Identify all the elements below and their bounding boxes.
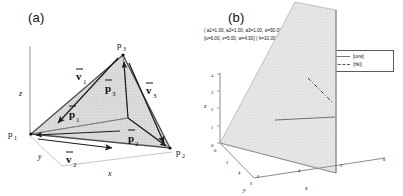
panel-a: (a) <box>0 0 202 196</box>
x-tick-6: 6 <box>257 174 260 179</box>
edge-vector-label-v2: v 2 <box>66 152 77 169</box>
panel-b-plot: 0 1 2 3 4 0 2 4 6 0 2 4 6 z y x <box>200 0 403 196</box>
panel-a-diagram: z y x p 1 p 2 p 3 p 1 <box>0 0 202 196</box>
z-axis-label: z <box>203 103 207 109</box>
panel-a-label: (a) <box>28 10 45 25</box>
svg-text:1: 1 <box>76 116 80 124</box>
x-axis-line <box>62 152 172 166</box>
svg-text:3: 3 <box>153 92 157 100</box>
svg-text:3: 3 <box>123 46 126 52</box>
y-tick-0: 0 <box>214 148 217 153</box>
vertex-p2-dot <box>168 146 171 149</box>
svg-text:2: 2 <box>182 153 185 159</box>
svg-text:1: 1 <box>83 78 87 86</box>
vertex-p3-dot <box>121 53 124 56</box>
svg-text:p: p <box>105 82 111 94</box>
z-axis-label: z <box>18 89 23 98</box>
svg-text:p: p <box>69 108 75 120</box>
z-tick-4: 4 <box>211 73 214 78</box>
z-tick-1: 1 <box>211 125 214 130</box>
y-axis-label: y <box>242 187 246 193</box>
svg-text:2: 2 <box>73 161 77 169</box>
z-tick-2: 2 <box>211 107 214 112</box>
svg-text:p: p <box>117 40 122 50</box>
svg-text:v: v <box>76 70 82 82</box>
svg-text:2: 2 <box>135 140 139 148</box>
z-tick-3: 3 <box>211 90 214 95</box>
svg-text:p: p <box>128 132 134 144</box>
edge-vector-label-v1: v 1 <box>76 69 87 86</box>
x-axis-label: x <box>304 185 308 191</box>
svg-text:1: 1 <box>14 135 17 141</box>
y-tick-2: 2 <box>226 160 229 165</box>
x-axis-label: x <box>107 169 112 178</box>
svg-text:v: v <box>146 84 152 96</box>
edge-vector-label-v3: v 3 <box>146 83 157 100</box>
figure-container: (a) <box>0 0 403 196</box>
svg-text:p: p <box>176 147 181 157</box>
x-tick-0: 0 <box>383 157 386 162</box>
x-tick-2: 2 <box>340 163 343 168</box>
vertex-label-p2: p 2 <box>176 147 185 159</box>
panel-b: (b) ( a1=1.00, a2=1.00, a3=1.00, α=90.0°… <box>200 0 403 196</box>
y-axis-label: y <box>37 152 42 161</box>
y-tick-4: 4 <box>238 170 241 175</box>
vertex-p1-dot <box>29 132 32 135</box>
svg-text:p: p <box>8 129 13 139</box>
svg-text:3: 3 <box>112 90 116 98</box>
vertex-label-p3: p 3 <box>117 40 126 52</box>
svg-text:v: v <box>66 153 72 165</box>
vertex-label-p1: p 1 <box>8 129 17 141</box>
y-tick-6: 6 <box>250 181 253 186</box>
